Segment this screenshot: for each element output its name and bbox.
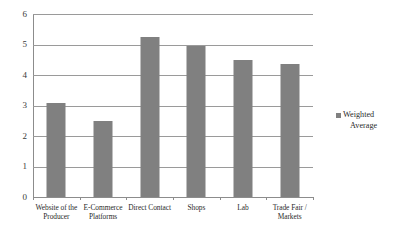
x-label-line-1: E-Commerce [84, 203, 123, 212]
legend-entry-weighted-average: Weighted Average [343, 110, 377, 131]
x-label-line-2: Producer [43, 212, 69, 221]
y-tick-5: 5 [11, 40, 27, 49]
bars-layer [33, 14, 313, 197]
bar-chart: 6 5 4 3 2 1 0 [0, 0, 403, 245]
legend-square-marker-icon [336, 113, 341, 118]
y-tick-6: 6 [11, 10, 27, 19]
bar-slot-website-of-the-producer [33, 14, 80, 197]
x-label-line-1: Shops [187, 203, 205, 212]
bar-trade-fair-markets[interactable] [280, 64, 299, 197]
y-tick-0: 0 [11, 193, 27, 202]
x-label-line-1: Lab [237, 203, 248, 212]
bar-slot-e-commerce-platforms [80, 14, 127, 197]
y-tick-2: 2 [11, 132, 27, 141]
y-tick-1: 1 [11, 162, 27, 171]
bar-shops[interactable] [187, 46, 206, 197]
y-tick-3: 3 [11, 101, 27, 110]
y-tick-4: 4 [11, 71, 27, 80]
x-tick-5 [266, 197, 267, 200]
bar-lab[interactable] [234, 60, 253, 197]
plot-area [33, 14, 313, 197]
x-tick-4 [220, 197, 221, 200]
legend: Weighted Average [336, 110, 400, 131]
bar-slot-lab [220, 14, 267, 197]
x-tick-2 [126, 197, 127, 200]
legend-label-line-1: Weighted [343, 110, 374, 119]
bar-slot-direct-contact [126, 14, 173, 197]
x-tick-6 [313, 197, 314, 200]
x-label-line-1: Website of the [35, 203, 77, 212]
bar-website-of-the-producer[interactable] [47, 103, 66, 198]
x-label-line-1: Direct Contact [128, 203, 171, 212]
legend-label-line-2: Average [343, 121, 377, 132]
x-label-trade-fair-markets: Trade Fair / Markets [260, 203, 319, 222]
x-tick-3 [173, 197, 174, 200]
x-tick-0 [33, 197, 34, 200]
x-label-line-2: Platforms [89, 212, 117, 221]
x-label-line-2: Markets [278, 212, 302, 221]
bar-slot-shops [173, 14, 220, 197]
x-tick-1 [80, 197, 81, 200]
x-label-line-1: Trade Fair / [273, 203, 307, 212]
bar-slot-trade-fair-markets [266, 14, 313, 197]
bar-e-commerce-platforms[interactable] [94, 121, 113, 197]
bar-direct-contact[interactable] [140, 37, 159, 197]
